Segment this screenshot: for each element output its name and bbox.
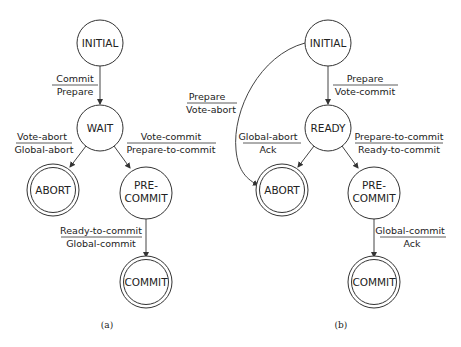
state-label: COMMIT xyxy=(352,192,396,204)
svg-text:Global-abort: Global-abort xyxy=(238,131,297,142)
transition-label-initial-abort: Prepare Vote-abort xyxy=(186,91,237,115)
state-label: PRE- xyxy=(134,179,158,191)
svg-text:Prepare-to-commit: Prepare-to-commit xyxy=(127,144,216,155)
state-label: PRE- xyxy=(362,179,386,191)
svg-text:Commit: Commit xyxy=(56,73,94,84)
svg-text:Vote-commit: Vote-commit xyxy=(141,131,202,142)
caption-b: (b) xyxy=(335,320,348,330)
svg-text:Prepare: Prepare xyxy=(189,91,226,102)
diagram-b: INITIAL READY ABORT PRE- COMMIT COMMIT P… xyxy=(186,20,446,330)
state-wait: WAIT xyxy=(77,105,123,151)
state-precommit: PRE- COMMIT xyxy=(348,167,400,219)
state-initial: INITIAL xyxy=(77,20,123,66)
transition-label-wait-abort: Vote-abort Global-abort xyxy=(14,131,73,155)
state-commit: COMMIT xyxy=(348,256,400,308)
transition-label-precommit-commit: Ready-to-commit Global-commit xyxy=(60,225,142,249)
edge-ready-abort xyxy=(298,146,314,167)
state-label: COMMIT xyxy=(124,276,168,288)
transition-label-wait-precommit: Vote-commit Prepare-to-commit xyxy=(127,131,216,155)
state-ready: READY xyxy=(305,105,351,151)
transition-label-initial-ready: Prepare Vote-commit xyxy=(333,73,398,97)
caption-a: (a) xyxy=(101,320,113,330)
svg-text:Prepare-to-commit: Prepare-to-commit xyxy=(355,131,444,142)
svg-text:Vote-abort: Vote-abort xyxy=(17,131,67,142)
state-label: ABORT xyxy=(264,184,300,196)
transition-label-ready-precommit: Prepare-to-commit Ready-to-commit xyxy=(355,131,444,155)
svg-text:Ack: Ack xyxy=(259,144,277,155)
svg-text:Vote-commit: Vote-commit xyxy=(335,86,396,97)
state-precommit: PRE- COMMIT xyxy=(120,167,172,219)
diagram-a: INITIAL WAIT ABORT PRE- COMMIT COMMIT Co… xyxy=(14,20,216,330)
svg-text:Prepare: Prepare xyxy=(347,73,384,84)
svg-text:Global-commit: Global-commit xyxy=(66,238,136,249)
state-commit: COMMIT xyxy=(120,256,172,308)
svg-text:Ready-to-commit: Ready-to-commit xyxy=(358,144,440,155)
svg-text:Ack: Ack xyxy=(403,238,421,249)
state-label: INITIAL xyxy=(82,37,119,49)
transition-label-ready-abort: Global-abort Ack xyxy=(238,131,301,155)
svg-text:Vote-abort: Vote-abort xyxy=(186,104,236,115)
transition-label-initial-wait: Commit Prepare xyxy=(52,73,98,97)
state-label: ABORT xyxy=(35,184,71,196)
state-label: COMMIT xyxy=(124,192,168,204)
state-label: COMMIT xyxy=(352,276,396,288)
edge-initial-abort xyxy=(236,43,305,185)
state-abort: ABORT xyxy=(27,164,79,216)
svg-text:Global-abort: Global-abort xyxy=(14,144,73,155)
state-initial: INITIAL xyxy=(305,20,351,66)
svg-text:Prepare: Prepare xyxy=(57,86,94,97)
svg-text:Ready-to-commit: Ready-to-commit xyxy=(60,225,142,236)
three-phase-commit-diagram: INITIAL WAIT ABORT PRE- COMMIT COMMIT Co… xyxy=(0,0,461,347)
edge-ready-precommit xyxy=(342,146,358,168)
svg-text:Global-commit: Global-commit xyxy=(375,225,445,236)
state-abort: ABORT xyxy=(256,164,308,216)
state-label: INITIAL xyxy=(310,37,347,49)
state-label: READY xyxy=(310,122,346,134)
transition-label-precommit-commit: Global-commit Ack xyxy=(375,225,446,249)
state-label: WAIT xyxy=(87,122,114,134)
